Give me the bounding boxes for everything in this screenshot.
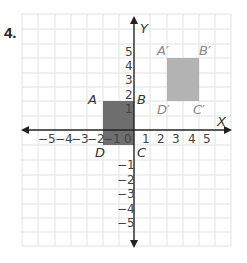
svg-text:−4: −4	[117, 202, 135, 216]
point-label-d-prime: D′	[157, 102, 170, 117]
svg-text:2: 2	[125, 88, 133, 102]
svg-text:−1: −1	[117, 158, 135, 172]
point-label-a: A	[87, 92, 97, 107]
svg-text:2: 2	[157, 132, 165, 146]
point-label-c: C	[137, 145, 147, 160]
y-axis-down-arrow-icon	[130, 240, 138, 248]
svg-text:−5: −5	[38, 132, 56, 146]
point-label-d: D	[95, 145, 105, 160]
svg-text:4: 4	[188, 132, 196, 146]
point-label-b: B	[137, 92, 146, 107]
square-a-prime-b-prime-c-prime-d-prime	[167, 58, 199, 101]
svg-text:0: 0	[124, 132, 132, 146]
x-axis-label: X	[216, 114, 227, 129]
point-label-a-prime: A′	[156, 43, 169, 58]
svg-text:−5: −5	[117, 216, 135, 230]
svg-text:1: 1	[142, 132, 150, 146]
coordinate-grid: Y X −5 −4 −3 −2 −1 0 1 2 3 4 5 5 4 3 2 1…	[0, 0, 247, 263]
y-axis-label: Y	[140, 21, 149, 36]
svg-text:3: 3	[125, 73, 133, 87]
svg-text:3: 3	[172, 132, 180, 146]
svg-text:−2: −2	[117, 173, 135, 187]
point-label-b-prime: B′	[199, 43, 211, 58]
svg-text:−3: −3	[117, 187, 135, 201]
point-label-c-prime: C′	[193, 102, 205, 117]
x-tick-labels: −5 −4 −3 −2 −1 0 1 2 3 4 5	[38, 132, 211, 146]
svg-text:5: 5	[125, 45, 133, 59]
svg-text:1: 1	[125, 102, 133, 116]
svg-text:5: 5	[203, 132, 211, 146]
svg-text:4: 4	[125, 59, 133, 73]
y-axis-up-arrow-icon	[130, 16, 138, 24]
svg-text:−1: −1	[103, 132, 121, 146]
